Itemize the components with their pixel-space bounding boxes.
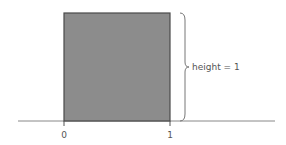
curly-brace-icon [180, 13, 189, 121]
x-tick-label-0: 0 [61, 130, 67, 140]
unit-square-diagram: height = 1 0 1 [0, 0, 286, 145]
x-tick-label-1: 1 [167, 130, 173, 140]
height-label: height = 1 [192, 62, 240, 72]
unit-square [64, 13, 170, 121]
